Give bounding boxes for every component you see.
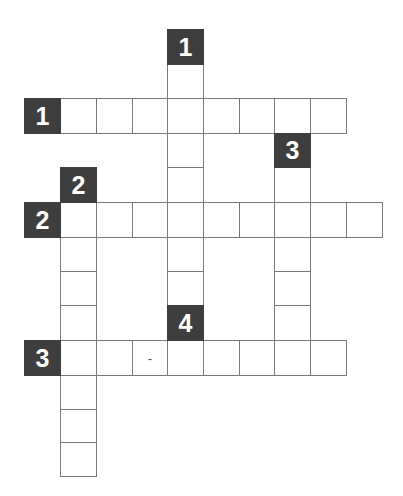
letter-cell[interactable] <box>96 98 133 134</box>
clue-number-across-2: 2 <box>24 202 61 238</box>
letter-cell[interactable] <box>346 202 383 238</box>
letter-cell[interactable] <box>132 202 168 238</box>
letter-cell[interactable] <box>60 271 97 306</box>
letter-cell[interactable] <box>239 202 275 238</box>
letter-cell[interactable] <box>96 340 133 376</box>
letter-cell[interactable] <box>60 340 97 376</box>
crossword-grid: -1132243 <box>0 0 403 496</box>
clue-number-down-2: 2 <box>60 167 97 203</box>
letter-cell[interactable] <box>274 271 311 306</box>
letter-cell[interactable] <box>132 98 168 134</box>
letter-cell[interactable] <box>203 98 240 134</box>
letter-cell[interactable] <box>203 202 240 238</box>
letter-cell[interactable] <box>167 340 204 376</box>
letter-cell[interactable] <box>274 237 311 272</box>
clue-number-down-1: 1 <box>167 29 204 65</box>
letter-cell[interactable] <box>60 202 97 238</box>
letter-cell[interactable] <box>310 98 347 134</box>
letter-cell[interactable] <box>167 64 204 99</box>
letter-cell[interactable] <box>96 202 133 238</box>
letter-cell[interactable] <box>167 167 204 203</box>
clue-number-across-1: 1 <box>24 98 61 134</box>
letter-cell[interactable] <box>274 167 311 203</box>
letter-cell[interactable] <box>60 442 97 477</box>
letter-cell[interactable] <box>274 202 311 238</box>
letter-cell[interactable] <box>167 98 204 134</box>
clue-number-down-3: 3 <box>274 133 311 168</box>
letter-cell[interactable] <box>203 340 240 376</box>
clue-number-down-4: 4 <box>167 305 204 341</box>
hyphen-mark: - <box>133 341 167 375</box>
letter-cell[interactable] <box>167 133 204 168</box>
letter-cell[interactable] <box>310 202 347 238</box>
letter-cell[interactable] <box>60 237 97 272</box>
letter-cell[interactable] <box>239 340 275 376</box>
letter-cell[interactable] <box>310 340 347 376</box>
letter-cell[interactable] <box>167 271 204 306</box>
letter-cell[interactable] <box>274 305 311 341</box>
letter-cell[interactable]: - <box>132 340 168 376</box>
letter-cell[interactable] <box>60 98 97 134</box>
letter-cell[interactable] <box>60 375 97 410</box>
letter-cell[interactable] <box>167 237 204 272</box>
letter-cell[interactable] <box>274 98 311 134</box>
letter-cell[interactable] <box>60 305 97 341</box>
letter-cell[interactable] <box>60 409 97 443</box>
letter-cell[interactable] <box>274 340 311 376</box>
letter-cell[interactable] <box>167 202 204 238</box>
letter-cell[interactable] <box>239 98 275 134</box>
clue-number-across-3: 3 <box>24 340 61 376</box>
